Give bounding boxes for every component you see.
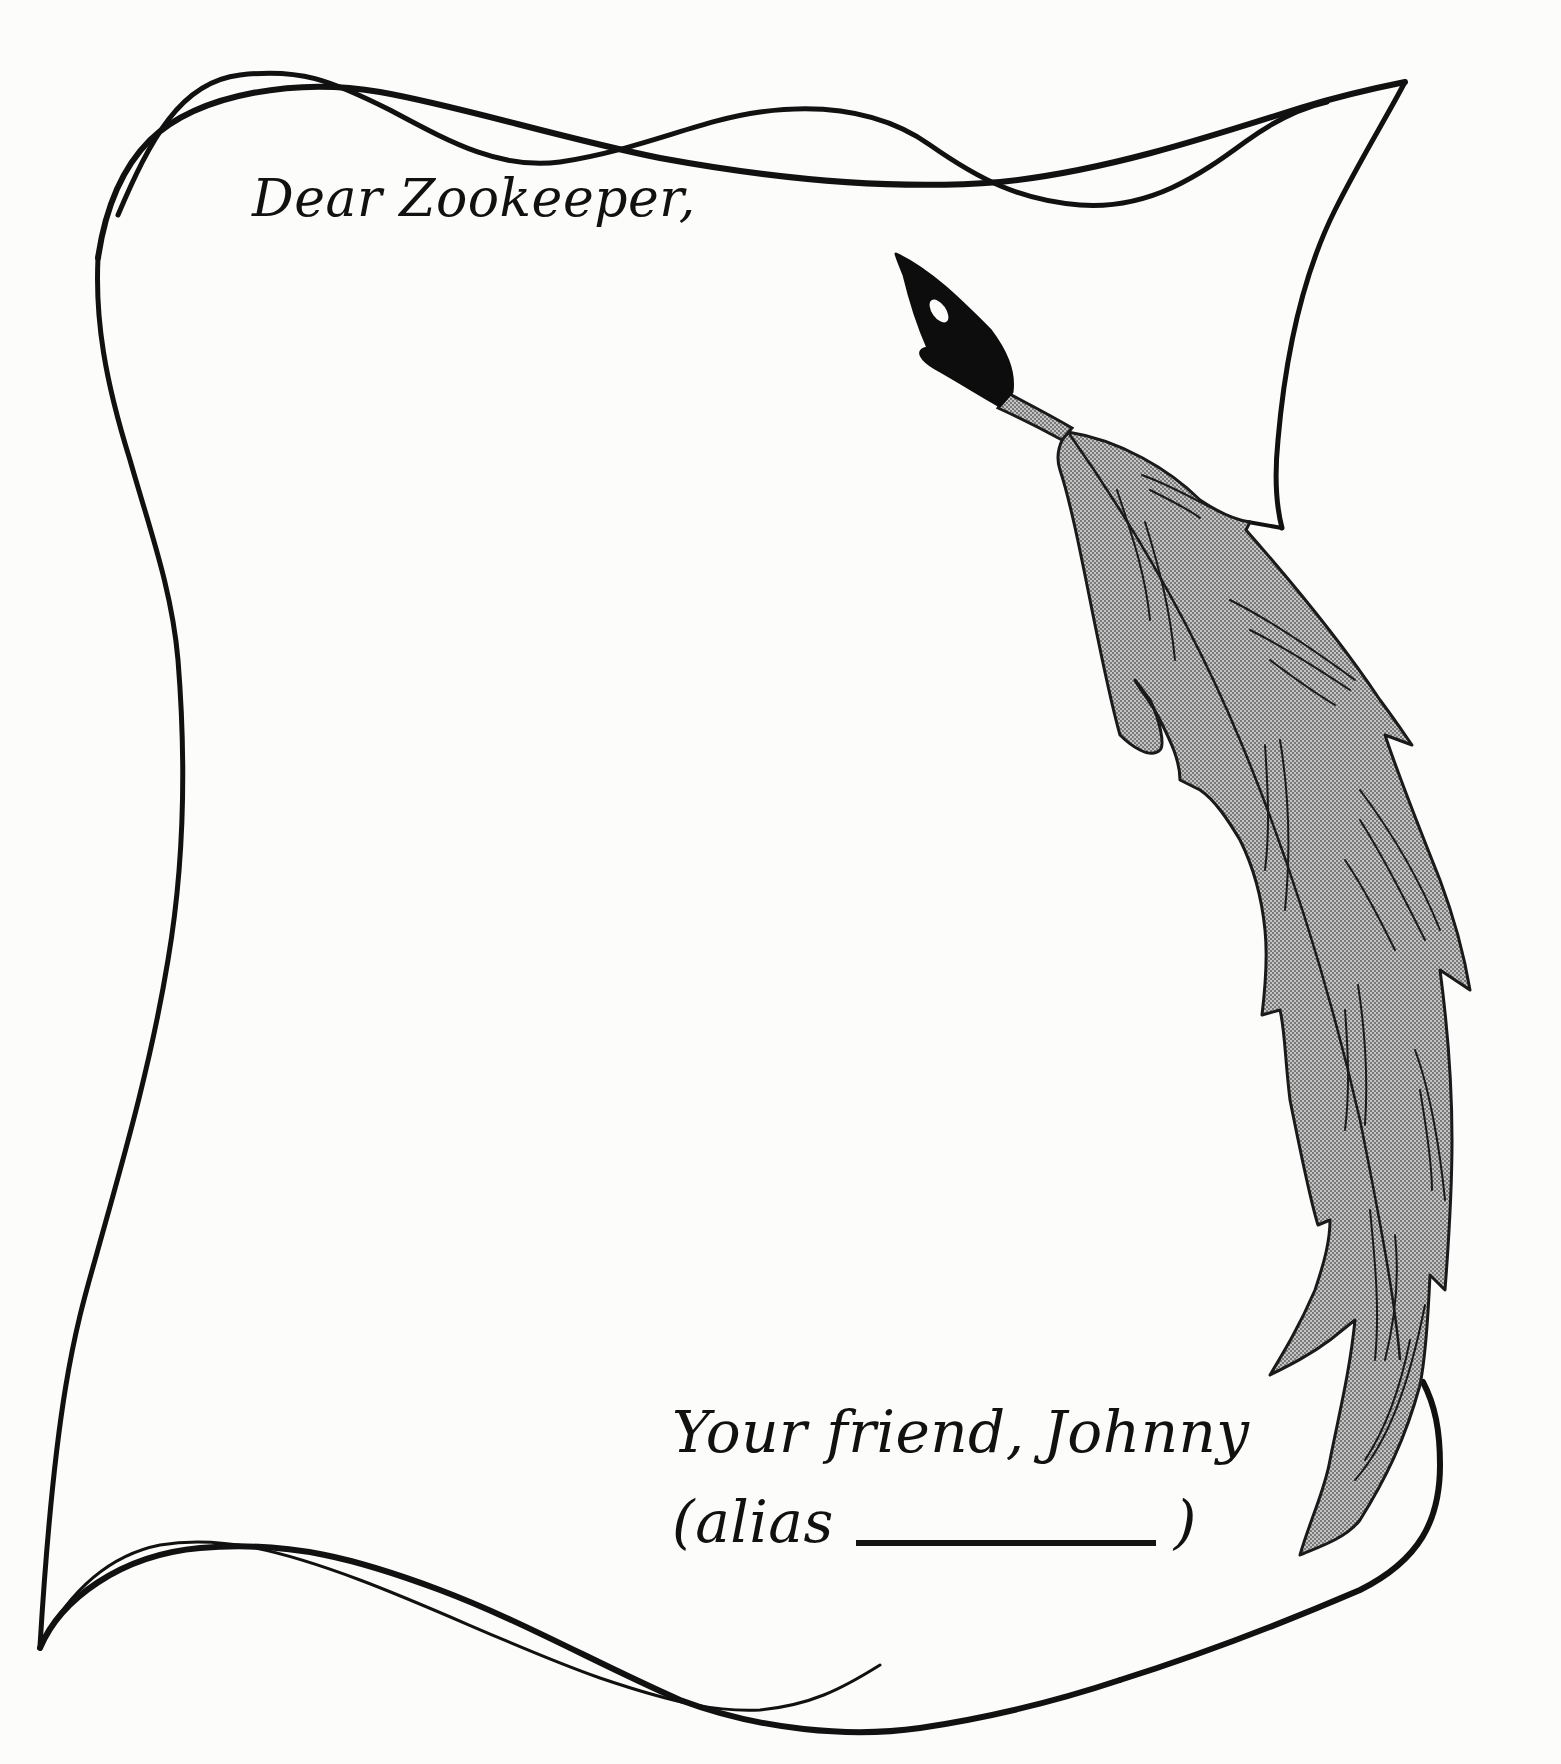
alias-prefix: (alias [672,1488,834,1556]
alias-blank-field[interactable] [856,1539,1156,1546]
letter-template-page: Dear Zookeeper, Your friend, Johnny (ali… [0,0,1561,1764]
alias-line: (alias ) [672,1488,1197,1556]
alias-suffix: ) [1174,1488,1197,1556]
feather-icon [1058,432,1470,1555]
letter-body-area[interactable] [200,260,1100,1360]
letter-closing: Your friend, Johnny [672,1398,1250,1466]
letter-greeting: Dear Zookeeper, [252,168,696,228]
